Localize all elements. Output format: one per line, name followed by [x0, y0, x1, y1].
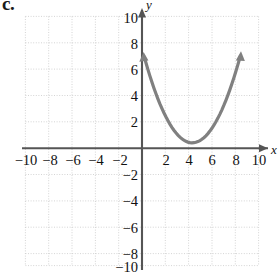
y-tick-label: 8 [131, 36, 138, 52]
y-axis-arrowhead [138, 8, 146, 18]
graph-figure: c. [0, 0, 280, 274]
x-tick-labels: −10 −8 −6 −4 −2 2 4 6 8 10 [15, 152, 267, 168]
part-label: c. [2, 0, 14, 13]
y-tick-label: 4 [131, 88, 139, 104]
x-tick-label: 8 [232, 152, 239, 168]
y-tick-label: 10 [124, 10, 139, 26]
x-tick-label: 10 [252, 152, 267, 168]
y-tick-label: −6 [123, 220, 138, 236]
x-tick-label: −4 [88, 152, 104, 168]
axes [22, 10, 268, 270]
x-tick-label: 2 [162, 152, 169, 168]
curve-right-arrowhead [236, 51, 245, 61]
x-axis-arrowhead [259, 144, 268, 152]
curve-left-arrowhead [139, 52, 148, 62]
y-axis-name: y [144, 0, 152, 12]
x-axis-name: x [270, 142, 277, 157]
coordinate-plane: y x −10 −8 −6 −4 −2 2 4 6 8 10 10 8 6 4 … [0, 0, 280, 274]
x-tick-label: −6 [65, 152, 80, 168]
y-tick-label: 6 [131, 62, 138, 78]
y-tick-label: −4 [123, 193, 139, 209]
x-tick-label: 4 [185, 152, 193, 168]
y-tick-label: −2 [123, 167, 138, 183]
x-tick-label: −10 [15, 152, 38, 168]
x-tick-label: 6 [208, 152, 215, 168]
y-tick-label: −10 [115, 259, 138, 274]
y-tick-label: 2 [131, 114, 138, 130]
x-tick-label: −8 [42, 152, 57, 168]
x-tick-label: −2 [112, 152, 127, 168]
